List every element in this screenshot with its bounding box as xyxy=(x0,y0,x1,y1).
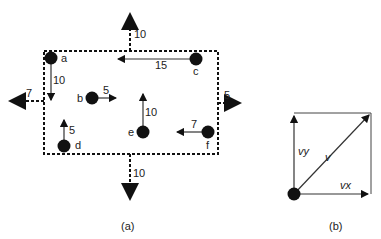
svg-text:vx: vx xyxy=(340,179,352,191)
svg-text:7: 7 xyxy=(191,118,197,130)
particle-b: b 5 xyxy=(77,84,116,105)
particle-c: c 15 xyxy=(118,53,203,78)
caption-b: (b) xyxy=(329,220,342,232)
svg-text:f: f xyxy=(206,139,210,151)
diagram: 10 10 7 5 a 10 b 5 c 15 d 5 xyxy=(0,0,381,239)
svg-text:b: b xyxy=(77,92,83,104)
particle-b-origin xyxy=(288,188,301,201)
svg-text:vy: vy xyxy=(298,145,311,157)
svg-text:d: d xyxy=(75,139,81,151)
svg-text:10: 10 xyxy=(53,74,65,86)
net-left-label: 7 xyxy=(26,87,32,99)
net-vector-bottom: 10 xyxy=(130,154,145,199)
svg-text:15: 15 xyxy=(155,59,167,71)
particle-f: f 7 xyxy=(177,118,215,151)
svg-text:v: v xyxy=(325,151,332,163)
svg-text:a: a xyxy=(61,52,68,64)
bounding-box xyxy=(44,51,218,154)
svg-text:10: 10 xyxy=(145,106,157,118)
svg-text:c: c xyxy=(193,65,199,77)
particle-d: d 5 xyxy=(58,120,82,153)
net-vector-right: 5 xyxy=(218,89,240,103)
net-right-label: 5 xyxy=(224,89,230,101)
net-bottom-label: 10 xyxy=(133,167,145,179)
particle-e: e 10 xyxy=(128,94,157,139)
particle-a: a 10 xyxy=(45,52,69,101)
svg-text:5: 5 xyxy=(69,124,75,136)
net-vector-top: 10 xyxy=(130,14,146,51)
svg-text:e: e xyxy=(128,126,134,138)
net-vector-left: 7 xyxy=(10,87,44,101)
caption-a: (a) xyxy=(121,220,134,232)
figure-b: vy v vx (b) xyxy=(288,113,372,232)
svg-text:5: 5 xyxy=(103,84,109,96)
net-top-label: 10 xyxy=(134,28,146,40)
